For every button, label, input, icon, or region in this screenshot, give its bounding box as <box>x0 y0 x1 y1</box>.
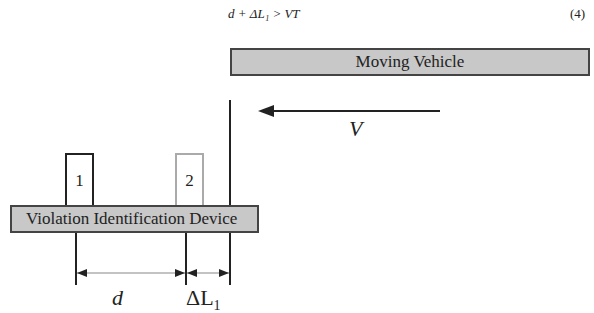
delta-l-subscript: 1 <box>214 298 221 313</box>
distance-label: d <box>112 285 123 311</box>
delta-l-text: ΔL <box>186 285 214 310</box>
delta-l-label: ΔL1 <box>186 285 221 313</box>
moving-vehicle: Moving Vehicle <box>230 48 590 76</box>
velocity-label: V <box>349 116 362 142</box>
sensor-1: 1 <box>65 153 94 206</box>
sensor-2: 2 <box>175 153 204 206</box>
violation-identification-device: Violation Identification Device <box>10 205 259 233</box>
